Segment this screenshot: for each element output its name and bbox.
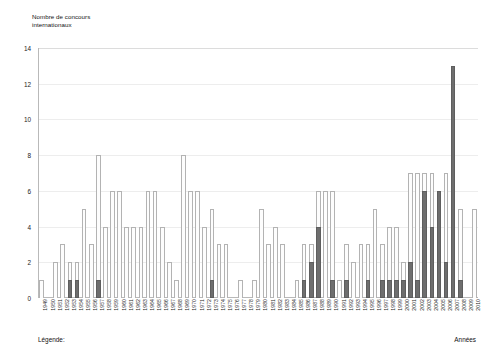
- bar-stack[interactable]: [131, 227, 136, 298]
- bar-slot: [75, 48, 80, 298]
- bar-stack[interactable]: [280, 244, 285, 298]
- x-tick-1995: 1995: [370, 299, 375, 333]
- bar-stack[interactable]: [351, 262, 356, 298]
- bar-slot: [131, 48, 136, 298]
- bar-stack[interactable]: [82, 209, 87, 298]
- bar-stack[interactable]: [273, 227, 278, 298]
- bar-stack[interactable]: [373, 209, 378, 298]
- bar-stack[interactable]: [103, 227, 108, 298]
- bar-stack[interactable]: [422, 173, 427, 298]
- bar-stack[interactable]: [380, 244, 385, 298]
- bar-stack[interactable]: [259, 209, 264, 298]
- x-tick-1986: 1986: [306, 299, 311, 333]
- bar-slot: [195, 48, 200, 298]
- bar-slot: [302, 48, 307, 298]
- bar-stack[interactable]: [53, 262, 58, 298]
- y-axis-title-line2: internationaux: [32, 21, 152, 29]
- bar-stack[interactable]: [181, 155, 186, 298]
- bar-segment-dark: [366, 280, 371, 298]
- bar-stack[interactable]: [337, 280, 342, 298]
- bar-stack[interactable]: [75, 262, 80, 298]
- bar-segment-light: [53, 262, 58, 298]
- bar-stack[interactable]: [110, 191, 115, 298]
- bar-segment-light: [323, 191, 328, 298]
- bar-slot: [266, 48, 271, 298]
- bar-slot: [39, 48, 44, 298]
- bar-stack[interactable]: [217, 244, 222, 298]
- bar-stack[interactable]: [302, 244, 307, 298]
- bar-stack[interactable]: [266, 244, 271, 298]
- bar-stack[interactable]: [444, 173, 449, 298]
- bar-stack[interactable]: [167, 262, 172, 298]
- bar-slot: [437, 48, 442, 298]
- bar-slot: [280, 48, 285, 298]
- x-tick-1950: 1950: [51, 299, 56, 333]
- bar-stack[interactable]: [316, 191, 321, 298]
- x-tick-1962: 1962: [136, 299, 141, 333]
- x-tick-2008: 2008: [462, 299, 467, 333]
- x-tick-1977: 1977: [242, 299, 247, 333]
- bar-stack[interactable]: [195, 191, 200, 298]
- bar-stack[interactable]: [359, 244, 364, 298]
- bar-stack[interactable]: [68, 262, 73, 298]
- bar-segment-light: [430, 173, 435, 227]
- bar-slot: [337, 48, 342, 298]
- bar-stack[interactable]: [252, 280, 257, 298]
- bar-stack[interactable]: [224, 244, 229, 298]
- bar-stack[interactable]: [160, 227, 165, 298]
- bar-stack[interactable]: [344, 244, 349, 298]
- x-tick-2002: 2002: [420, 299, 425, 333]
- x-tick-1980: 1980: [263, 299, 268, 333]
- bar-stack[interactable]: [387, 227, 392, 298]
- bar-stack[interactable]: [39, 280, 44, 298]
- bar-stack[interactable]: [139, 227, 144, 298]
- bar-stack[interactable]: [295, 280, 300, 298]
- bar-stack[interactable]: [174, 280, 179, 298]
- bar-stack[interactable]: [188, 191, 193, 298]
- x-tick-1951: 1951: [58, 299, 63, 333]
- bar-stack[interactable]: [153, 191, 158, 298]
- bar-stack[interactable]: [146, 191, 151, 298]
- bar-slot: [430, 48, 435, 298]
- x-tick-1982: 1982: [278, 299, 283, 333]
- bar-stack[interactable]: [202, 227, 207, 298]
- y-tick-12: 12: [24, 80, 31, 87]
- x-tick-1966: 1966: [164, 299, 169, 333]
- bar-stack[interactable]: [394, 227, 399, 298]
- x-tick-1987: 1987: [313, 299, 318, 333]
- bar-stack[interactable]: [415, 173, 420, 298]
- bar-stack[interactable]: [330, 191, 335, 298]
- bar-stack[interactable]: [89, 244, 94, 298]
- bar-stack[interactable]: [437, 191, 442, 298]
- x-tick-1996: 1996: [377, 299, 382, 333]
- bar-stack[interactable]: [238, 280, 243, 298]
- bar-stack[interactable]: [96, 155, 101, 298]
- bar-segment-light: [153, 191, 158, 298]
- bar-slot: [359, 48, 364, 298]
- bar-stack[interactable]: [401, 262, 406, 298]
- bar-stack[interactable]: [472, 209, 477, 298]
- x-axis-tick-labels: 1949195019511952195319541955195619571958…: [38, 299, 478, 333]
- bar-slot: [295, 48, 300, 298]
- bar-stack[interactable]: [451, 66, 456, 298]
- bar-segment-light: [401, 262, 406, 280]
- x-tick-2007: 2007: [455, 299, 460, 333]
- bar-stack[interactable]: [210, 209, 215, 298]
- bar-stack[interactable]: [309, 244, 314, 298]
- bar-segment-dark: [437, 191, 442, 298]
- y-axis-title-line1: Nombre de concours: [32, 13, 152, 21]
- bar-segment-light: [60, 244, 65, 298]
- bar-stack[interactable]: [60, 244, 65, 298]
- bar-segment-light: [302, 244, 307, 280]
- bar-stack[interactable]: [430, 173, 435, 298]
- bar-stack[interactable]: [323, 191, 328, 298]
- bar-stack[interactable]: [117, 191, 122, 298]
- bar-segment-dark: [401, 280, 406, 298]
- bar-stack[interactable]: [366, 244, 371, 298]
- bar-stack[interactable]: [408, 173, 413, 298]
- bar-segment-dark: [422, 191, 427, 298]
- bar-stack[interactable]: [458, 209, 463, 298]
- y-tick-10: 10: [24, 116, 31, 123]
- bar-stack[interactable]: [124, 227, 129, 298]
- bar-segment-light: [273, 227, 278, 298]
